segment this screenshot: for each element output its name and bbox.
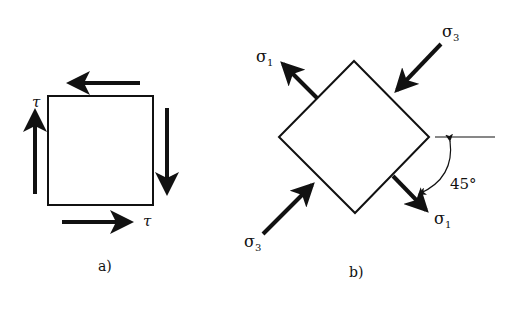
caption-b: b) — [349, 264, 363, 280]
sigma1-arrow-top — [283, 64, 317, 98]
tau-label-top: τ — [32, 93, 41, 111]
angle-label: 45° — [450, 175, 477, 193]
sigma1-label-top: σ1 — [256, 47, 273, 68]
stress-element-figure: τ τ a) σ1 σ3 σ3 σ1 45° b) — [0, 0, 519, 309]
caption-a: a) — [98, 258, 112, 274]
tau-label-bottom: τ — [143, 212, 152, 230]
sigma3-label-bottom: σ3 — [244, 232, 261, 253]
sigma3-label-top: σ3 — [442, 22, 459, 43]
pure-shear-element: τ τ a) — [32, 83, 167, 274]
angle-arc — [419, 141, 451, 194]
principal-stress-element: σ1 σ3 σ3 σ1 45° b) — [244, 22, 495, 280]
sigma3-arrow-bottom — [263, 185, 312, 234]
sigma1-label-bottom: σ1 — [434, 209, 451, 230]
diagram-svg: τ τ a) σ1 σ3 σ3 σ1 45° b) — [0, 0, 519, 309]
square-element — [48, 96, 153, 205]
sigma3-arrow-top — [397, 44, 441, 90]
